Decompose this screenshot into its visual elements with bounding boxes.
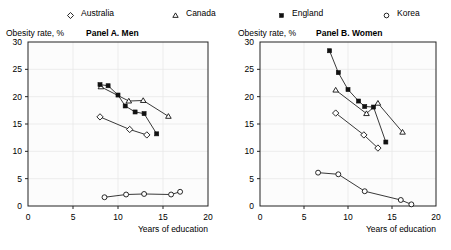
square-filled-marker [155,132,159,136]
legend-item-korea[interactable]: Korea [382,5,420,21]
square-filled-marker [116,93,120,97]
square-filled-marker [123,104,127,108]
y-tick-label: 15 [13,119,23,129]
square-filled-marker [371,105,375,109]
y-tick-label: 5 [249,174,254,184]
x-tick-label: 5 [302,212,307,222]
triangle-open-marker [171,9,180,18]
y-tick-label: 30 [13,37,23,47]
y-tick-label: 15 [245,119,255,129]
panel-b-plot: 05101520253005101520Years of education [232,28,451,244]
legend-item-england[interactable]: England [277,5,323,21]
square-filled-marker [142,112,146,116]
square-filled-marker [133,110,137,114]
panel-b-x-axis-title: Years of education [366,224,436,234]
circle-open-marker [169,192,174,197]
panel-a: Obesity rate, % Panel A. Men 05101520253… [0,28,228,244]
square-filled-marker [357,99,361,103]
legend-item-australia[interactable]: Australia [66,5,114,21]
square-filled-marker [346,88,350,92]
x-tick-label: 0 [26,212,31,222]
circle-open-marker [362,189,367,194]
y-tick-label: 5 [17,174,22,184]
y-tick-label: 10 [245,146,255,156]
legend-label: England [292,5,323,21]
square-filled-marker [363,104,367,108]
x-tick-label: 20 [203,212,213,222]
panel-b: Obesity rate, % Panel B. Women 051015202… [232,28,451,244]
circle-open-marker [398,198,403,203]
legend-label: Canada [186,5,216,21]
circle-open-marker [178,189,183,194]
y-axis: 051015202530 [13,37,28,211]
y-tick-label: 0 [249,201,254,211]
square-filled-marker [336,71,340,75]
square-filled-marker [98,83,102,87]
circle-open-marker [124,192,129,197]
legend-item-canada[interactable]: Canada [171,5,216,21]
diamond-open-marker [66,9,75,18]
legend-label: Korea [397,5,420,21]
y-tick-label: 25 [13,64,23,74]
panel-a-x-axis-title: Years of education [138,224,208,234]
circle-open-marker [142,192,147,197]
y-tick-label: 20 [13,92,23,102]
y-tick-label: 20 [245,92,255,102]
square-filled-marker [277,9,286,18]
y-tick-label: 25 [245,64,255,74]
x-tick-label: 5 [71,212,76,222]
y-tick-label: 30 [245,37,255,47]
y-tick-label: 0 [17,201,22,211]
x-tick-label: 10 [343,212,353,222]
circle-open-marker [409,202,414,207]
circle-open-marker [102,195,107,200]
x-tick-label: 0 [258,212,263,222]
circle-open-marker [382,9,391,18]
x-tick-label: 20 [431,212,441,222]
square-filled-marker [384,140,388,144]
chart-legend: AustraliaCanadaEnglandKorea [0,5,451,21]
x-tick-label: 15 [158,212,168,222]
figure-root: AustraliaCanadaEnglandKorea Obesity rate… [0,0,451,250]
circle-open-marker [336,172,341,177]
circle-open-marker [316,170,321,175]
x-tick-label: 15 [387,212,397,222]
legend-label: Australia [81,5,114,21]
x-axis: 05101520 [26,206,213,222]
x-axis: 05101520 [258,206,441,222]
panel-a-plot: 05101520253005101520Years of education [0,28,228,244]
square-filled-marker [327,49,331,53]
x-tick-label: 10 [113,212,123,222]
y-tick-label: 10 [13,146,23,156]
y-axis: 051015202530 [245,37,260,211]
square-filled-marker [106,84,110,88]
